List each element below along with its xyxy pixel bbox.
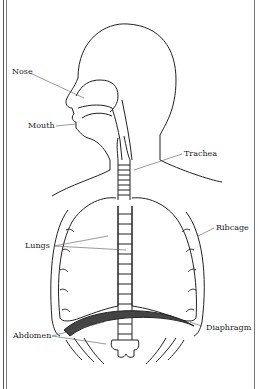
label-lungs: Lungs [25, 242, 50, 250]
label-diaphragm: Diaphragm [206, 324, 251, 332]
label-nose: Nose [12, 68, 33, 76]
label-abdomen: Abdomen [13, 332, 51, 340]
trachea [117, 136, 130, 200]
label-ribcage: Ribcage [216, 224, 249, 232]
diaphragm [64, 311, 194, 336]
label-trachea: Trachea [184, 150, 217, 158]
lungs-leader-1 [54, 236, 108, 246]
head-outline [52, 24, 222, 196]
label-mouth: Mouth [28, 122, 55, 130]
mouth-leader [56, 124, 76, 126]
lungs [59, 198, 197, 321]
nasal-cavity [76, 80, 118, 118]
trachea-leader [134, 154, 182, 170]
lower-ribs [66, 338, 184, 364]
abdomen-leader-2 [52, 336, 106, 344]
ribcage-leader [198, 228, 214, 236]
nose-leader [30, 73, 84, 98]
leader-lines [30, 73, 214, 344]
spine [111, 206, 139, 357]
